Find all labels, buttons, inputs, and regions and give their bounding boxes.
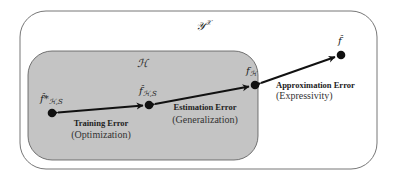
estimation-error-title: Estimation Error bbox=[174, 102, 237, 112]
point-f-h bbox=[251, 81, 260, 90]
training-error-title: Training Error bbox=[74, 118, 129, 128]
point-f-star-hs bbox=[48, 109, 57, 118]
approximation-error-subtitle: (Expressivity) bbox=[276, 90, 333, 102]
estimation-error-subtitle: (Generalization) bbox=[172, 114, 238, 126]
point-f bbox=[337, 51, 346, 60]
point-f-hs bbox=[145, 101, 154, 110]
training-error-subtitle: (Optimization) bbox=[71, 129, 130, 141]
error-decomposition-diagram: 𝒴𝒳 ℋ f̂*ℋ,S f̂ℋ,S fℋ f̂ Training Error (… bbox=[0, 0, 394, 179]
approximation-error-title: Approximation Error bbox=[276, 80, 355, 90]
